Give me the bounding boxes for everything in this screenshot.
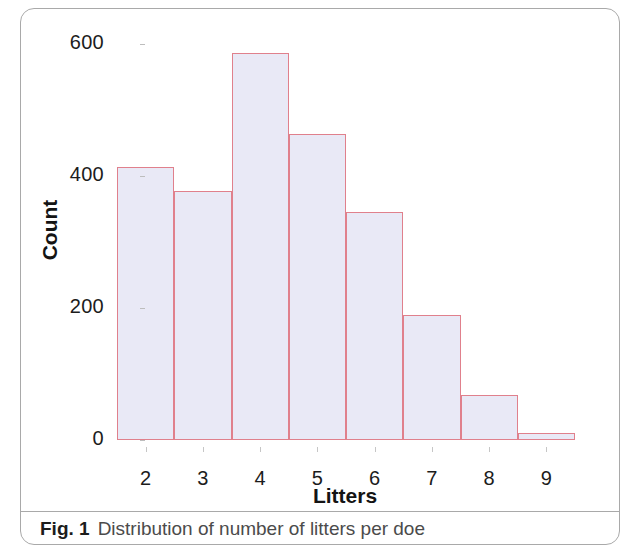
- bar: [232, 53, 289, 440]
- y-axis-tick-mark: [140, 44, 145, 45]
- y-axis-title: Count: [38, 170, 62, 290]
- x-axis-tick-mark: [203, 447, 204, 452]
- bar: [289, 134, 346, 440]
- bar: [518, 433, 575, 440]
- figure-caption-text: Distribution of number of litters per do…: [98, 518, 425, 539]
- y-axis-tick-mark: [140, 308, 145, 309]
- bar: [461, 395, 518, 440]
- y-axis-tick-label: 0: [44, 427, 104, 450]
- chart-plot-area: 0200400600 23456789 Count Litters: [0, 0, 627, 500]
- caption-divider: [21, 511, 619, 512]
- x-axis-tick-mark: [317, 447, 318, 452]
- bar: [117, 167, 174, 440]
- x-axis-tick-labels: 23456789: [0, 455, 627, 485]
- bar: [403, 315, 460, 440]
- x-axis-tick-mark: [260, 447, 261, 452]
- figure-caption: Fig. 1Distribution of number of litters …: [40, 518, 610, 540]
- x-axis-title: Litters: [0, 484, 627, 508]
- y-axis-tick-mark: [140, 440, 145, 441]
- x-axis-tick-mark: [546, 447, 547, 452]
- y-axis-tick-label: 600: [44, 31, 104, 54]
- y-axis-tick-mark: [140, 176, 145, 177]
- x-axis-tick-mark: [146, 447, 147, 452]
- bar: [346, 212, 403, 440]
- figure-caption-label: Fig. 1: [40, 518, 90, 539]
- y-axis-tick-label: 200: [44, 295, 104, 318]
- x-axis-tick-mark: [432, 447, 433, 452]
- x-axis-tick-mark: [489, 447, 490, 452]
- bar: [174, 191, 231, 440]
- x-axis-tick-mark: [375, 447, 376, 452]
